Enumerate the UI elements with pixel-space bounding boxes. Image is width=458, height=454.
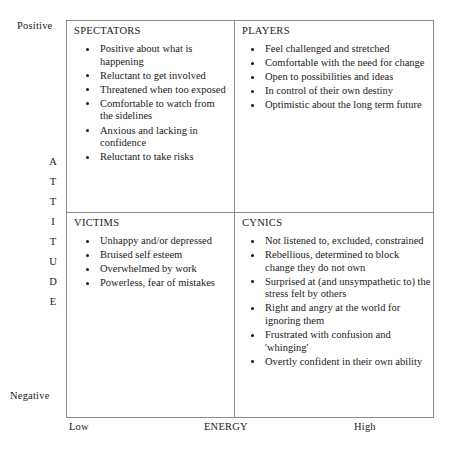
bullet-icon — [251, 48, 254, 51]
attitude-axis-label: A T T I T U D E — [44, 152, 62, 312]
bullet-icon — [251, 334, 254, 337]
axis-label-high: High — [354, 421, 376, 432]
list-item-text: Threatened when too exposed — [100, 84, 226, 95]
list-item-text: Reluctant to get involved — [100, 70, 206, 81]
matrix-box: SPECTATORS Positive about what is happen… — [66, 20, 434, 418]
quadrant-spectators: SPECTATORS Positive about what is happen… — [67, 21, 234, 212]
list-item: Bruised self esteem — [100, 249, 228, 262]
list-item: Reluctant to take risks — [100, 151, 228, 164]
list-item-text: Right and angry at the world for ignorin… — [265, 302, 400, 326]
list-item-text: Not listened to, excluded, constrained — [265, 235, 424, 246]
players-bullet-list: Feel challenged and stretched Comfortabl… — [235, 43, 435, 112]
list-item: Frustrated with confusion and 'whinging' — [265, 329, 431, 354]
list-item: Optimistic about the long term future — [265, 99, 431, 112]
bullet-icon — [251, 62, 254, 65]
energy-axis: Low ENERGY High — [66, 421, 434, 439]
bullet-icon — [86, 102, 89, 105]
bullet-icon — [86, 48, 89, 51]
list-item-text: Overwhelmed by work — [100, 263, 197, 274]
bullet-icon — [251, 280, 254, 283]
bullet-icon — [251, 76, 254, 79]
attitude-letter: A — [49, 152, 57, 172]
list-item: Reluctant to get involved — [100, 70, 228, 83]
list-item-text: Surprised at (and unsympathetic to) the … — [265, 276, 430, 300]
list-item: Anxious and lacking in confidence — [100, 125, 228, 150]
victims-bullet-list: Unhappy and/or depressed Bruised self es… — [67, 235, 234, 290]
attitude-letter: T — [50, 172, 56, 192]
list-item: Feel challenged and stretched — [265, 43, 431, 56]
axis-title-energy: ENERGY — [204, 421, 248, 432]
quadrant-title-players: PLAYERS — [235, 21, 435, 36]
attitude-letter: E — [50, 292, 56, 312]
list-item-text: Reluctant to take risks — [100, 151, 194, 162]
list-item-text: Unhappy and/or depressed — [100, 235, 212, 246]
cynics-bullet-list: Not listened to, excluded, constrained R… — [235, 235, 435, 368]
list-item: Unhappy and/or depressed — [100, 235, 228, 248]
quadrant-victims: VICTIMS Unhappy and/or depressed Bruised… — [67, 213, 234, 419]
list-item-text: Positive about what is happening — [100, 43, 192, 67]
quadrant-cynics: CYNICS Not listened to, excluded, constr… — [235, 213, 435, 419]
list-item: Right and angry at the world for ignorin… — [265, 302, 431, 327]
list-item-text: Comfortable to watch from the sidelines — [100, 98, 215, 122]
list-item: In control of their own destiny — [265, 85, 431, 98]
list-item-text: Comfortable with the need for change — [265, 57, 424, 68]
list-item: Comfortable with the need for change — [265, 57, 431, 70]
list-item-text: Open to possibilities and ideas — [265, 71, 393, 82]
axis-label-negative: Negative — [10, 390, 50, 401]
list-item-text: In control of their own destiny — [265, 85, 393, 96]
bullet-icon — [86, 129, 89, 132]
list-item: Comfortable to watch from the sidelines — [100, 98, 228, 123]
quadrant-title-victims: VICTIMS — [67, 213, 234, 228]
bullet-icon — [86, 240, 89, 243]
bullet-icon — [251, 254, 254, 257]
bullet-icon — [86, 254, 89, 257]
attitude-letter: U — [49, 252, 57, 272]
list-item-text: Feel challenged and stretched — [265, 43, 390, 54]
bullet-icon — [86, 268, 89, 271]
list-item-text: Overtly confident in their own ability — [265, 356, 422, 367]
axis-label-low: Low — [69, 421, 89, 432]
spectators-bullet-list: Positive about what is happening Relucta… — [67, 43, 234, 164]
attitude-letter: I — [51, 212, 55, 232]
list-item: Overwhelmed by work — [100, 263, 228, 276]
list-item: Powerless, fear of mistakes — [100, 277, 228, 290]
quadrant-title-spectators: SPECTATORS — [67, 21, 234, 36]
bullet-icon — [86, 74, 89, 77]
attitude-energy-matrix: Positive Negative A T T I T U D E SPECTA… — [0, 0, 458, 454]
attitude-letter: T — [50, 232, 56, 252]
list-item-text: Rebellious, determined to block change t… — [265, 249, 399, 273]
list-item: Threatened when too exposed — [100, 84, 228, 97]
attitude-letter: D — [49, 272, 57, 292]
bullet-icon — [251, 104, 254, 107]
list-item-text: Optimistic about the long term future — [265, 99, 422, 110]
list-item-text: Frustrated with confusion and 'whinging' — [265, 329, 391, 353]
bullet-icon — [251, 90, 254, 93]
list-item-text: Anxious and lacking in confidence — [100, 125, 198, 149]
bullet-icon — [251, 307, 254, 310]
quadrant-title-cynics: CYNICS — [235, 213, 435, 228]
list-item-text: Powerless, fear of mistakes — [100, 277, 215, 288]
bullet-icon — [86, 282, 89, 285]
bullet-icon — [251, 360, 254, 363]
bullet-icon — [251, 240, 254, 243]
list-item: Not listened to, excluded, constrained — [265, 235, 431, 248]
list-item: Rebellious, determined to block change t… — [265, 249, 431, 274]
list-item: Overtly confident in their own ability — [265, 356, 431, 369]
list-item-text: Bruised self esteem — [100, 249, 182, 260]
list-item: Open to possibilities and ideas — [265, 71, 431, 84]
list-item: Surprised at (and unsympathetic to) the … — [265, 276, 431, 301]
bullet-icon — [86, 88, 89, 91]
quadrant-players: PLAYERS Feel challenged and stretched Co… — [235, 21, 435, 212]
list-item: Positive about what is happening — [100, 43, 228, 68]
bullet-icon — [86, 156, 89, 159]
axis-label-positive: Positive — [17, 20, 52, 31]
attitude-letter: T — [50, 192, 56, 212]
